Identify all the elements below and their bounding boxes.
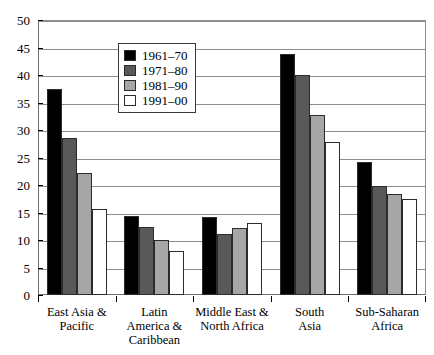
y-tick-mark bbox=[38, 158, 43, 159]
x-tick-mark bbox=[271, 296, 272, 302]
y-tick-label: 35 bbox=[4, 97, 30, 110]
legend-item: 1961–70 bbox=[124, 48, 188, 63]
bar bbox=[357, 162, 372, 295]
legend-label: 1971–80 bbox=[142, 64, 188, 77]
legend-item: 1971–80 bbox=[124, 63, 188, 78]
y-tick-label: 5 bbox=[4, 262, 30, 275]
bar bbox=[154, 240, 169, 295]
bar bbox=[139, 227, 154, 295]
legend-swatch-icon bbox=[124, 95, 136, 106]
bar bbox=[295, 75, 310, 295]
y-tick-label: 15 bbox=[4, 207, 30, 220]
bar bbox=[202, 217, 217, 295]
bar bbox=[372, 186, 387, 295]
legend-label: 1981–90 bbox=[142, 79, 188, 92]
bar bbox=[169, 251, 184, 295]
y-tick-mark bbox=[38, 185, 43, 186]
bar bbox=[62, 138, 77, 295]
y-tick-label: 0 bbox=[4, 289, 30, 302]
y-tick-label: 20 bbox=[4, 179, 30, 192]
bar bbox=[47, 89, 62, 295]
legend-label: 1961–70 bbox=[142, 49, 188, 62]
bar bbox=[387, 194, 402, 295]
y-tick-label: 40 bbox=[4, 69, 30, 82]
y-tick-label: 50 bbox=[4, 14, 30, 27]
y-axis: 50454035302520151050 bbox=[0, 20, 30, 295]
x-tick-mark bbox=[425, 296, 426, 302]
legend-label: 1991–00 bbox=[142, 94, 188, 107]
x-tick-mark bbox=[193, 296, 194, 302]
bar bbox=[402, 199, 417, 295]
y-tick-label: 25 bbox=[4, 152, 30, 165]
bar-chart: 50454035302520151050 East Asia &PacificL… bbox=[0, 0, 434, 355]
y-tick-mark bbox=[38, 20, 43, 21]
y-tick-mark bbox=[38, 213, 43, 214]
bar-group bbox=[348, 20, 426, 295]
y-tick-label: 30 bbox=[4, 124, 30, 137]
x-label-line: Caribbean bbox=[108, 333, 202, 347]
bar bbox=[247, 223, 262, 295]
y-tick-label: 10 bbox=[4, 234, 30, 247]
y-tick-mark bbox=[38, 103, 43, 104]
x-label-line: Africa bbox=[340, 319, 434, 333]
y-tick-label: 45 bbox=[4, 42, 30, 55]
bar bbox=[310, 115, 325, 295]
y-tick-mark bbox=[38, 75, 43, 76]
bar bbox=[77, 173, 92, 295]
x-label-line: Sub-Saharan bbox=[340, 305, 434, 319]
bar bbox=[124, 216, 139, 295]
y-tick-mark bbox=[38, 48, 43, 49]
bar bbox=[280, 54, 295, 295]
x-axis: East Asia &PacificLatinAmerica &Caribbea… bbox=[38, 296, 426, 355]
y-tick-mark bbox=[38, 130, 43, 131]
bar bbox=[92, 209, 107, 295]
bar bbox=[232, 228, 247, 295]
x-tick-mark bbox=[116, 296, 117, 302]
x-axis-category-label: Sub-SaharanAfrica bbox=[340, 305, 434, 333]
legend-item: 1991–00 bbox=[124, 93, 188, 108]
chart-legend: 1961–701971–801981–901991–00 bbox=[118, 43, 196, 113]
bars-layer bbox=[38, 20, 426, 295]
bar bbox=[325, 142, 340, 295]
y-tick-mark bbox=[38, 268, 43, 269]
legend-swatch-icon bbox=[124, 50, 136, 61]
bar-group bbox=[271, 20, 349, 295]
y-tick-mark bbox=[38, 295, 43, 296]
bar bbox=[217, 234, 232, 295]
y-tick-mark bbox=[38, 240, 43, 241]
x-tick-mark bbox=[348, 296, 349, 302]
bar-group bbox=[193, 20, 271, 295]
x-tick-mark bbox=[38, 296, 39, 302]
bar-group bbox=[38, 20, 116, 295]
legend-swatch-icon bbox=[124, 80, 136, 91]
legend-item: 1981–90 bbox=[124, 78, 188, 93]
legend-swatch-icon bbox=[124, 65, 136, 76]
